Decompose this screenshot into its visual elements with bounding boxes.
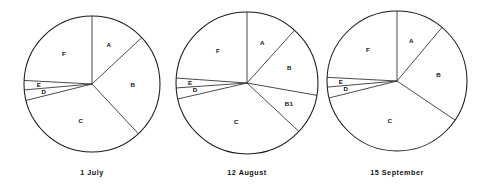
pie-slice-label-E: E [339,78,343,85]
pie-slice-label-B: B [436,71,441,78]
pie-slice-label-F: F [366,46,370,53]
pie-slice-label-A: A [409,37,414,44]
pie-slice-label-C: C [388,117,393,124]
pie-chart-caption-3: 15 September [277,168,490,177]
pie-slice-label-D: D [344,85,349,92]
pie-chart-3-graphic: ABCDEF [0,0,490,193]
pie-chart-panel-3: ABCDEF15 September [0,0,490,193]
pie-chart-figure: ABCDEF1 JulyABB1CDEF12 AugustABCDEF15 Se… [0,0,490,193]
